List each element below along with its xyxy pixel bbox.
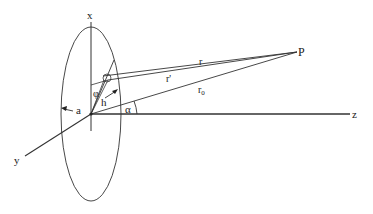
y-axis-label: y bbox=[14, 154, 20, 166]
h-label: h bbox=[101, 96, 107, 108]
r0-line bbox=[91, 52, 297, 114]
alpha-label: α bbox=[125, 103, 131, 115]
alpha-arc bbox=[134, 101, 137, 114]
r-prime-line bbox=[108, 52, 297, 80]
x-axis-label: x bbox=[87, 9, 93, 21]
radius-a-label: a bbox=[76, 104, 81, 116]
a-arrowhead bbox=[61, 106, 67, 111]
point-p-label: P bbox=[298, 45, 305, 59]
r-label: r bbox=[199, 56, 203, 67]
z-axis-label: z bbox=[352, 108, 357, 120]
r0-subscript: 0 bbox=[201, 89, 205, 97]
y-axis bbox=[25, 114, 91, 156]
phi-label: φ bbox=[93, 88, 99, 99]
r0-label: r0 bbox=[198, 84, 205, 97]
origin-dot bbox=[89, 112, 92, 115]
r-prime-label: r' bbox=[166, 73, 171, 84]
loop-geometry-diagram: x y z P r r' r0 a h φ α bbox=[0, 0, 373, 214]
